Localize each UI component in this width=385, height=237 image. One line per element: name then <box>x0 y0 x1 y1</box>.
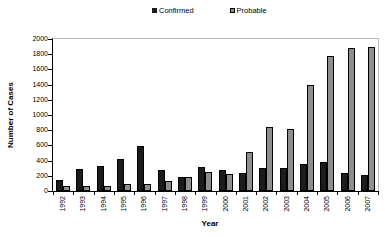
legend: Confirmed Probable <box>152 6 267 15</box>
confirmed-swatch-icon <box>152 8 157 13</box>
x-tick-mark <box>175 191 176 195</box>
y-tick-label-1000: 1000 <box>18 111 48 119</box>
y-tick-label-2000: 2000 <box>18 35 48 43</box>
x-tick-label-2005: 2005 <box>322 196 332 222</box>
bar-confirmed-1996 <box>137 146 144 191</box>
bar-confirmed-2002 <box>259 168 266 191</box>
x-tick-mark <box>195 191 196 195</box>
y-tick-label-200: 200 <box>18 172 48 180</box>
bar-probable-2004 <box>307 85 314 191</box>
y-tick-label-800: 800 <box>18 126 48 134</box>
x-tick-mark <box>134 191 135 195</box>
x-tick-label-2007: 2007 <box>363 196 373 222</box>
x-tick-mark <box>276 191 277 195</box>
legend-item-probable: Probable <box>230 6 267 15</box>
x-tick-mark <box>297 191 298 195</box>
x-tick-mark <box>378 191 379 195</box>
bar-confirmed-1999 <box>198 167 205 191</box>
bar-confirmed-2004 <box>300 164 307 191</box>
y-axis-title: Number of Cases <box>6 75 16 155</box>
y-tick-label-600: 600 <box>18 141 48 149</box>
x-tick-mark <box>94 191 95 195</box>
y-tick-mark <box>48 115 52 116</box>
y-tick-mark <box>48 145 52 146</box>
x-tick-label-2002: 2002 <box>261 196 271 222</box>
x-tick-label-2001: 2001 <box>241 196 251 222</box>
y-tick-label-1200: 1200 <box>18 96 48 104</box>
bar-probable-2000 <box>226 174 233 191</box>
probable-swatch-icon <box>230 8 235 13</box>
bar-probable-1996 <box>144 184 151 191</box>
y-tick-label-1400: 1400 <box>18 81 48 89</box>
y-tick-mark <box>48 39 52 40</box>
y-tick-mark <box>48 54 52 55</box>
bar-confirmed-2003 <box>280 168 287 191</box>
bar-confirmed-2006 <box>341 173 348 191</box>
x-tick-mark <box>236 191 237 195</box>
legend-item-confirmed: Confirmed <box>152 6 194 15</box>
y-tick-label-1800: 1800 <box>18 50 48 58</box>
bar-confirmed-1992 <box>56 180 63 191</box>
x-tick-mark <box>256 191 257 195</box>
x-tick-label-1994: 1994 <box>99 196 109 222</box>
bar-probable-2001 <box>246 152 253 191</box>
x-tick-label-1993: 1993 <box>78 196 88 222</box>
bar-probable-2007 <box>368 47 375 191</box>
y-tick-mark <box>48 85 52 86</box>
x-tick-mark <box>114 191 115 195</box>
x-tick-mark <box>337 191 338 195</box>
y-tick-label-400: 400 <box>18 157 48 165</box>
bar-confirmed-2000 <box>219 170 226 191</box>
bar-probable-2005 <box>327 56 334 191</box>
x-tick-label-1997: 1997 <box>160 196 170 222</box>
bar-probable-2002 <box>266 127 273 191</box>
bar-probable-1995 <box>124 184 131 191</box>
y-tick-mark <box>48 176 52 177</box>
x-tick-mark <box>155 191 156 195</box>
bar-confirmed-1997 <box>158 170 165 191</box>
bar-confirmed-1993 <box>76 169 83 191</box>
y-tick-mark <box>48 161 52 162</box>
x-tick-label-1992: 1992 <box>58 196 68 222</box>
legend-label-probable: Probable <box>237 6 267 15</box>
bar-confirmed-2001 <box>239 173 246 191</box>
bar-probable-1999 <box>205 172 212 191</box>
bar-confirmed-2005 <box>320 162 327 191</box>
x-tick-label-1996: 1996 <box>139 196 149 222</box>
y-tick-label-1600: 1600 <box>18 65 48 73</box>
bar-confirmed-1998 <box>178 177 185 191</box>
bar-confirmed-1994 <box>97 166 104 191</box>
bar-probable-1993 <box>83 186 90 191</box>
bar-probable-1998 <box>185 177 192 191</box>
x-tick-mark <box>216 191 217 195</box>
y-tick-mark <box>48 130 52 131</box>
x-tick-mark <box>317 191 318 195</box>
bar-confirmed-1995 <box>117 159 124 191</box>
bar-probable-1994 <box>104 186 111 191</box>
bar-probable-2006 <box>348 48 355 191</box>
chart-container: Confirmed Probable Number of Cases 02004… <box>0 0 385 237</box>
legend-label-confirmed: Confirmed <box>159 6 194 15</box>
bar-probable-1992 <box>63 186 70 191</box>
y-tick-label-0: 0 <box>18 187 48 195</box>
plot-area <box>52 38 379 192</box>
x-tick-label-2006: 2006 <box>343 196 353 222</box>
y-tick-mark <box>48 191 52 192</box>
x-tick-mark <box>73 191 74 195</box>
x-tick-label-2004: 2004 <box>302 196 312 222</box>
bar-probable-1997 <box>165 181 172 191</box>
x-axis-title: Year <box>185 219 235 229</box>
y-tick-mark <box>48 100 52 101</box>
x-tick-mark <box>53 191 54 195</box>
x-tick-mark <box>358 191 359 195</box>
y-tick-mark <box>48 69 52 70</box>
bar-confirmed-2007 <box>361 175 368 191</box>
x-tick-label-1995: 1995 <box>119 196 129 222</box>
x-tick-label-2003: 2003 <box>282 196 292 222</box>
bar-probable-2003 <box>287 129 294 191</box>
